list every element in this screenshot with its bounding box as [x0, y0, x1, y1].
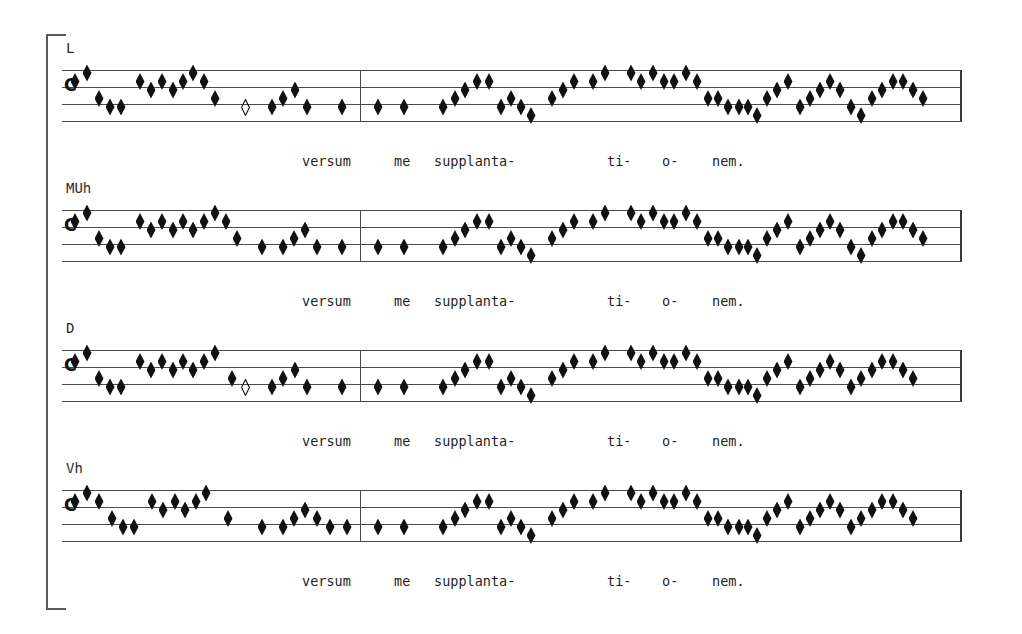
notehead-shape	[147, 222, 156, 239]
notehead-shape	[326, 519, 335, 536]
notehead-shape	[148, 493, 157, 510]
notehead-shape	[189, 222, 198, 239]
notehead	[374, 239, 383, 256]
notehead-shape	[374, 519, 383, 536]
notehead	[158, 213, 167, 230]
notehead-shape	[868, 230, 877, 247]
notehead	[171, 493, 180, 510]
notehead-shape	[816, 222, 825, 239]
notehead	[189, 362, 198, 379]
notehead-shape	[735, 379, 744, 396]
notehead	[95, 230, 104, 247]
notehead-shape	[693, 213, 702, 230]
notehead	[570, 73, 579, 90]
notehead	[627, 205, 636, 222]
notehead-shape	[682, 485, 691, 502]
lyric-syllable: o-	[662, 153, 678, 169]
notehead-shape	[637, 213, 646, 230]
notehead	[899, 362, 908, 379]
notehead-shape	[71, 493, 80, 510]
notehead-shape	[279, 90, 288, 107]
notehead-shape	[117, 239, 126, 256]
barline	[360, 490, 361, 541]
notehead	[83, 205, 92, 222]
notehead-shape	[704, 90, 713, 107]
notehead	[589, 213, 598, 230]
notehead	[169, 362, 178, 379]
notehead	[836, 82, 845, 99]
notehead-shape	[744, 99, 753, 116]
lyric-syllable: ti-	[607, 153, 631, 169]
notehead	[517, 99, 526, 116]
notehead-shape	[670, 73, 679, 90]
notehead	[136, 213, 145, 230]
notehead-shape	[548, 370, 557, 387]
notehead-shape	[806, 230, 815, 247]
notehead-shape	[570, 213, 579, 230]
notehead	[704, 370, 713, 387]
notehead	[95, 370, 104, 387]
notehead	[909, 370, 918, 387]
notehead	[147, 362, 156, 379]
notehead	[202, 485, 211, 502]
notehead	[806, 230, 815, 247]
notehead-shape	[108, 510, 117, 527]
notehead	[451, 370, 460, 387]
notehead	[724, 519, 733, 536]
notehead-shape	[693, 73, 702, 90]
notehead	[485, 353, 494, 370]
notehead-shape	[473, 73, 482, 90]
notehead	[461, 502, 470, 519]
staff-system: C	[62, 210, 962, 262]
notehead-shape	[83, 65, 92, 82]
notehead	[714, 90, 723, 107]
notehead	[763, 510, 772, 527]
notehead	[919, 90, 928, 107]
notehead	[909, 222, 918, 239]
notehead	[601, 485, 610, 502]
notehead-shape	[374, 379, 383, 396]
notehead	[784, 353, 793, 370]
notehead	[724, 239, 733, 256]
notehead-shape	[451, 510, 460, 527]
notehead-shape	[461, 222, 470, 239]
notehead-shape	[878, 353, 887, 370]
notehead	[735, 379, 744, 396]
notehead-shape	[159, 502, 168, 519]
notehead	[816, 362, 825, 379]
notehead-shape	[338, 99, 347, 116]
notehead	[660, 73, 669, 90]
notehead-shape	[192, 493, 201, 510]
notehead	[559, 362, 568, 379]
notehead	[847, 99, 856, 116]
notehead-shape	[763, 370, 772, 387]
notehead	[847, 519, 856, 536]
notehead-shape	[189, 362, 198, 379]
notehead-shape	[601, 485, 610, 502]
notehead	[301, 222, 310, 239]
notehead-shape	[303, 379, 312, 396]
notehead	[744, 239, 753, 256]
notehead	[473, 493, 482, 510]
notehead-shape	[627, 345, 636, 362]
notehead-shape	[200, 213, 209, 230]
notehead-shape	[637, 493, 646, 510]
notehead-shape	[660, 493, 669, 510]
notehead-shape	[517, 239, 526, 256]
notehead	[878, 82, 887, 99]
notehead	[71, 213, 80, 230]
lyric-syllable: o-	[662, 433, 678, 449]
notehead-shape	[714, 230, 723, 247]
notehead	[637, 213, 646, 230]
notehead-shape	[117, 99, 126, 116]
notehead	[899, 502, 908, 519]
notehead	[570, 353, 579, 370]
notehead-shape	[559, 502, 568, 519]
notehead	[660, 353, 669, 370]
notehead-shape	[559, 222, 568, 239]
notehead	[735, 239, 744, 256]
notehead-shape	[753, 387, 762, 404]
notehead-shape	[773, 502, 782, 519]
notehead-shape	[796, 519, 805, 536]
notehead	[660, 493, 669, 510]
